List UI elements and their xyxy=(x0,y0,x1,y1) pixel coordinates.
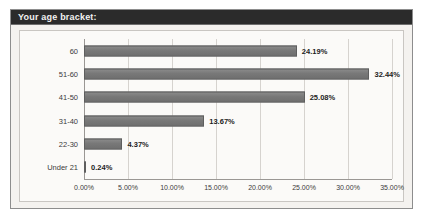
gridline xyxy=(392,39,393,179)
panel-title: Your age bracket: xyxy=(18,12,97,22)
x-tick-label: 10.00% xyxy=(160,184,184,191)
bar-row: 31-4013.67% xyxy=(84,109,392,132)
category-label: 60 xyxy=(70,46,78,55)
bar-value-label: 0.24% xyxy=(91,163,112,172)
x-tick-label: 0.00% xyxy=(74,184,94,191)
bar xyxy=(84,115,204,126)
bar-row: Under 210.24% xyxy=(84,156,392,179)
bar-value-label: 25.08% xyxy=(310,93,335,102)
chart-panel: Your age bracket: 6024.19%51-6032.44%41-… xyxy=(10,9,413,209)
bar-value-label: 4.37% xyxy=(127,139,148,148)
category-label: 31-40 xyxy=(59,116,78,125)
category-label: 51-60 xyxy=(59,69,78,78)
category-label: Under 21 xyxy=(47,163,78,172)
bar xyxy=(84,138,122,149)
bar-value-label: 13.67% xyxy=(209,116,234,125)
category-label: 41-50 xyxy=(59,93,78,102)
x-tick-label: 30.00% xyxy=(336,184,360,191)
bar xyxy=(84,45,297,56)
x-tick-label: 5.00% xyxy=(118,184,138,191)
x-axis-baseline xyxy=(84,179,392,180)
bar-row: 51-6032.44% xyxy=(84,62,392,85)
panel-title-bar: Your age bracket: xyxy=(11,10,412,25)
x-tick-label: 15.00% xyxy=(204,184,228,191)
x-tick-label: 35.00% xyxy=(380,184,404,191)
x-tick-label: 20.00% xyxy=(248,184,272,191)
bar xyxy=(84,162,86,173)
chart-canvas: 6024.19%51-6032.44%41-5025.08%31-4013.67… xyxy=(19,30,404,202)
bar-row: 22-304.37% xyxy=(84,132,392,155)
x-tick-label: 25.00% xyxy=(292,184,316,191)
category-label: 22-30 xyxy=(59,139,78,148)
bar-value-label: 24.19% xyxy=(302,46,327,55)
bar-value-label: 32.44% xyxy=(374,69,399,78)
bar xyxy=(84,68,369,79)
bar-row: 6024.19% xyxy=(84,39,392,62)
bar-row: 41-5025.08% xyxy=(84,86,392,109)
plot-area: 6024.19%51-6032.44%41-5025.08%31-4013.67… xyxy=(84,39,392,179)
bar xyxy=(84,92,305,103)
